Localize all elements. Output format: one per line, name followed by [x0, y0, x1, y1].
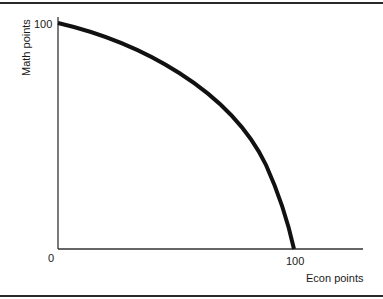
ppf-curve: [58, 23, 294, 249]
x-axis-label: Econ points: [306, 272, 363, 284]
y-axis-label: Math points: [20, 19, 32, 76]
chart-plot-area: [0, 0, 383, 299]
y-tick-100: 100: [34, 18, 52, 30]
x-tick-0: 0: [48, 252, 54, 264]
x-tick-100: 100: [286, 255, 304, 267]
